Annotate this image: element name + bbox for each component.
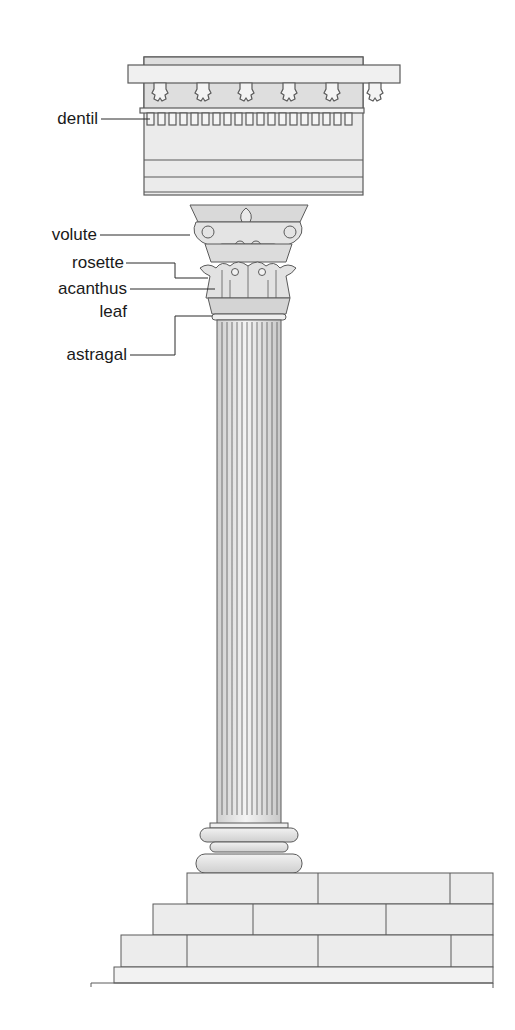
stylobate-steps — [91, 873, 493, 988]
label-volute: volute — [20, 226, 97, 244]
leader-astragal — [130, 316, 212, 355]
column-illustration — [0, 0, 515, 1030]
label-acanthus: acanthus — [20, 280, 127, 298]
label-rosette: rosette — [20, 254, 124, 272]
corinthian-column-diagram: dentil volute rosette acanthus leaf astr… — [0, 0, 515, 1030]
astragal-ring — [212, 314, 286, 320]
label-dentil: dentil — [20, 110, 98, 128]
label-leaf: leaf — [20, 303, 127, 321]
shaft — [217, 320, 281, 825]
leader-rosette — [126, 263, 208, 278]
column-base — [196, 823, 302, 873]
capital — [190, 205, 308, 320]
entablature — [128, 57, 400, 195]
label-astragal: astragal — [20, 346, 127, 364]
